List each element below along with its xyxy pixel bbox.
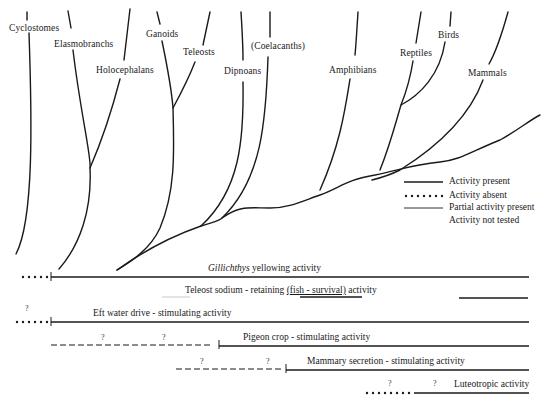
question-mark: ? [25,305,29,313]
activity-label-eft-water: Eft water drive - stimulating activity [93,309,232,319]
legend-label-partial: Partial activity present [449,203,534,213]
taxon-label-dipnoans: Dipnoans [224,67,261,77]
taxon-label-mammals: Mammals [468,69,507,79]
branch-dipnoans [201,12,243,226]
taxon-label-elasmobranchs: Elasmobranchs [54,40,113,50]
branch-birds [401,12,451,105]
teleost-sodium-pre: Teleost sodium - retaining [185,285,287,295]
activity-label-mammary: Mammary secretion - stimulating activity [307,357,465,367]
activity-label-teleost-sodium: Teleost sodium - retaining (fish - survi… [185,286,377,296]
question-mark: ? [433,380,437,388]
question-mark: ? [101,334,105,342]
taxon-label-birds: Birds [438,31,459,41]
legend-label-absent: Activity absent [449,191,507,201]
taxon-label-teleosts: Teleosts [183,48,215,58]
taxon-label-coelacanths: (Coelacanths) [251,42,305,52]
taxon-label-reptiles: Reptiles [400,49,432,59]
branch-holocephalans [90,9,130,168]
branch-teleosts [173,12,210,108]
activity-label-luteotropic: Luteotropic activity [454,380,529,390]
teleost-sodium-underlined: (fish - survival) [287,285,346,295]
gillichthys-name: Gillichthys [208,263,250,273]
taxon-label-holocephalans: Holocephalans [96,66,154,76]
question-mark: ? [162,334,166,342]
gillichthys-rest: yellowing activity [250,263,321,273]
legend-label-present: Activity present [449,177,510,187]
activity-label-pigeon-crop: Pigeon crop - stimulating activity [243,333,370,343]
activity-label-gillichthys: Gillichthys yellowing activity [208,264,321,274]
taxon-label-cyclostomes: Cyclostomes [9,24,59,34]
branch-amphibians [320,12,358,190]
question-mark: ? [200,358,204,366]
teleost-sodium-post: activity [346,285,377,295]
branch-cyclostomes [16,12,31,254]
taxon-label-ganoids: Ganoids [146,30,178,40]
taxon-label-amphibians: Amphibians [329,66,376,76]
question-mark: ? [266,358,270,366]
branch-reptiles [380,12,421,170]
legend-swatches [404,182,443,208]
legend-label-not-tested: Activity not tested [449,216,519,226]
branch-elasmobranchs [59,11,90,269]
question-mark: ? [388,380,392,388]
